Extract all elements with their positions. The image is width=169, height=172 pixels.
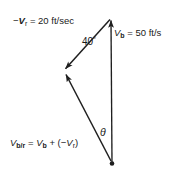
label-vb-unit: ft/s bbox=[146, 27, 161, 38]
label-resultant-subscript: b/r bbox=[16, 142, 25, 149]
label-vb-equals: = bbox=[125, 27, 136, 38]
label-resultant-plus: + ( bbox=[47, 137, 61, 148]
label-vb: Vb = 50 ft/s bbox=[114, 28, 161, 39]
label-angle-40-value: 40 bbox=[82, 36, 93, 47]
label-minus-vr-value: 20 bbox=[38, 15, 49, 26]
label-resultant-equation: Vb/r = Vb + (−Vr) bbox=[10, 138, 78, 149]
label-minus-vr: −Vr = 20 ft/sec bbox=[13, 16, 74, 27]
label-angle-40: 40° bbox=[82, 36, 96, 47]
label-vb-value: 50 bbox=[135, 27, 146, 38]
vector-diagram-figure: −Vr = 20 ft/sec Vb = 50 ft/s 40° θ Vb/r … bbox=[0, 0, 169, 172]
label-theta: θ bbox=[100, 127, 106, 138]
label-resultant-close: ) bbox=[75, 137, 78, 148]
vector-vb-line bbox=[111, 21, 112, 164]
label-minus-vr-unit: ft/sec bbox=[49, 15, 74, 26]
degree-symbol-icon: ° bbox=[93, 36, 96, 43]
label-resultant-equals: = bbox=[25, 137, 36, 148]
origin-dot bbox=[110, 161, 115, 166]
label-minus-vr-equals: = bbox=[27, 15, 38, 26]
